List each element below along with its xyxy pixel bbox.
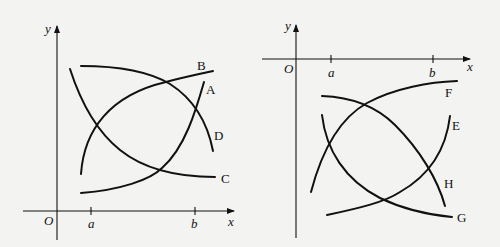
- curve-B: [81, 71, 213, 174]
- right-origin-label: O: [284, 61, 294, 76]
- curve-B-label: B: [197, 58, 206, 73]
- right-y-label: y: [283, 18, 291, 33]
- left-tick-a-label: a: [88, 216, 95, 231]
- curve-E-label: E: [452, 118, 460, 133]
- right-graph: O a b x y F E H G: [262, 18, 473, 238]
- curve-A-label: A: [206, 82, 216, 97]
- left-x-label: x: [227, 214, 234, 229]
- right-x-label: x: [466, 59, 473, 74]
- left-graph: O a b x y B A D C: [23, 21, 234, 240]
- curve-H-label: H: [444, 176, 453, 191]
- curve-A: [81, 82, 204, 193]
- figure: O a b x y B A D C O a b x y F E H G: [0, 0, 500, 247]
- curve-G-label: G: [457, 210, 466, 225]
- curve-C: [70, 69, 215, 177]
- curve-G: [322, 115, 452, 217]
- left-tick-b-label: b: [191, 216, 198, 231]
- curve-C-label: C: [221, 171, 230, 186]
- left-y-label: y: [43, 21, 51, 36]
- left-origin-label: O: [44, 213, 54, 228]
- right-tick-b-label: b: [429, 65, 436, 80]
- curve-H: [322, 96, 445, 206]
- curve-D-label: D: [214, 128, 223, 143]
- curve-F-label: F: [445, 85, 452, 100]
- curve-D: [81, 66, 213, 151]
- right-tick-a-label: a: [328, 65, 335, 80]
- curve-E: [327, 116, 450, 215]
